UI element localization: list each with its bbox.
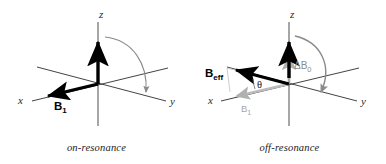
x-axis-label: x — [18, 95, 23, 106]
z-axis-label: z — [290, 9, 294, 20]
deltab0-vector-label: ΔB0 — [294, 61, 312, 74]
theta-angle-arc — [253, 79, 255, 89]
caption-off-resonance: off-resonance — [193, 142, 386, 153]
b1-vector-label: B1 — [241, 104, 251, 116]
b1-vector-label: B1 — [54, 101, 67, 115]
panel-off-resonance: z x y Beff B1 ΔB0 θ off-resonance — [193, 0, 386, 164]
beff-vector — [236, 70, 289, 84]
x-axis-label: x — [208, 95, 213, 106]
z-axis-label: z — [99, 9, 103, 20]
b1-vector — [48, 84, 98, 96]
nutation-arc-path — [105, 37, 146, 92]
nmr-rotating-frame-figure: z x y B1 on-resonance — [0, 0, 386, 164]
b1-vector — [237, 84, 289, 96]
panel-on-resonance: z x y B1 on-resonance — [0, 0, 193, 164]
y-axis-label: y — [361, 96, 366, 107]
caption-on-resonance: on-resonance — [0, 142, 193, 153]
on-resonance-diagram — [0, 0, 193, 140]
theta-angle-label: θ — [257, 80, 262, 91]
beff-vector-label: Beff — [205, 68, 223, 82]
construction-line-vertical — [227, 68, 230, 92]
y-axis-label: y — [170, 96, 175, 107]
